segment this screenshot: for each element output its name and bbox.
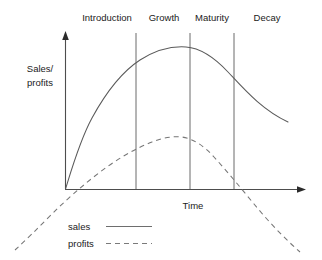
stage-label-decay: Decay [254,12,281,23]
stage-label-maturity: Maturity [195,12,229,23]
legend-label-sales: sales [68,221,90,232]
legend-item-sales: sales [68,221,152,232]
y-axis-title-line-2: profits [27,77,53,88]
x-axis-arrow-icon [297,186,306,193]
chart-canvas: Introduction Growth Maturity Decay Sales… [0,0,322,260]
sales-curve [66,47,289,189]
profits-curve [15,137,300,252]
y-axis-title: Sales/ profits [27,63,54,88]
product-life-cycle-diagram: Introduction Growth Maturity Decay Sales… [0,0,322,260]
stage-label-group: Introduction Growth Maturity Decay [82,12,281,23]
legend-item-profits: profits [68,238,152,249]
y-axis-title-line-1: Sales/ [27,63,54,74]
y-axis [62,31,69,190]
y-axis-arrow-icon [62,31,69,40]
stage-label-introduction: Introduction [82,12,132,23]
legend-label-profits: profits [68,238,94,249]
stage-divider-group [136,33,234,189]
x-axis-title: Time [183,200,204,211]
legend: sales profits [68,221,152,249]
stage-label-growth: Growth [149,12,180,23]
x-axis [65,186,306,193]
